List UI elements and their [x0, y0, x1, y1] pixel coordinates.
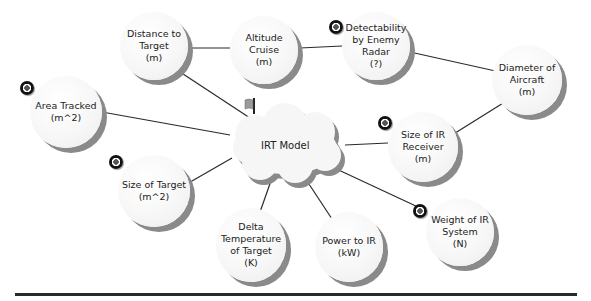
- edge-altitude-detectability: [300, 46, 342, 48]
- edge-targetsize-center: [185, 158, 232, 185]
- node-label: Size of IR Receiver (m): [401, 129, 445, 165]
- node-label: Power to IR (kW): [322, 235, 376, 259]
- node-weight-of-ir-system[interactable]: Weight of IR System (N): [426, 198, 494, 266]
- bottom-divider: [15, 293, 577, 296]
- node-label: Size of Target (m^2): [122, 179, 186, 203]
- edge-diameter-irreceiver: [452, 100, 508, 135]
- target-icon-detectability[interactable]: [329, 20, 343, 34]
- node-label: Detectability by Enemy Radar (?): [346, 22, 407, 70]
- target-icon-size-of-target[interactable]: [109, 155, 123, 169]
- target-icon-area-tracked[interactable]: [20, 81, 34, 95]
- node-detectability-by-enemy-radar[interactable]: Detectability by Enemy Radar (?): [342, 12, 410, 80]
- node-label: Area Tracked (m^2): [35, 100, 96, 124]
- node-size-of-target[interactable]: Size of Target (m^2): [118, 155, 190, 227]
- node-label: Weight of IR System (N): [431, 214, 489, 250]
- node-distance-to-target[interactable]: Distance to Target (m): [120, 12, 188, 80]
- edge-detectability-diameter: [410, 52, 500, 72]
- node-label: Diameter of Aircraft (m): [499, 62, 556, 98]
- node-delta-temperature-of-target[interactable]: Delta Temperature of Target (K): [216, 208, 286, 282]
- node-label: Distance to Target (m): [127, 28, 181, 64]
- edge-area-center: [102, 112, 230, 135]
- diagram-canvas: IRT Model Distance to Target (m) Altitud…: [0, 0, 591, 301]
- irt-model-label: IRT Model: [261, 140, 309, 151]
- node-altitude-cruise[interactable]: Altitude Cruise (m): [230, 16, 298, 84]
- target-icon-ir-receiver[interactable]: [378, 116, 392, 130]
- flag-icon: [245, 98, 255, 114]
- edge-irreceiver-center: [345, 143, 388, 145]
- node-size-of-ir-receiver[interactable]: Size of IR Receiver (m): [388, 112, 458, 182]
- node-label: Altitude Cruise (m): [230, 32, 298, 68]
- node-label: Delta Temperature of Target (K): [221, 221, 281, 269]
- target-icon-weight-ir-system[interactable]: [413, 204, 427, 218]
- edge-distance-center: [180, 72, 250, 118]
- node-diameter-of-aircraft[interactable]: Diameter of Aircraft (m): [492, 45, 562, 115]
- node-power-to-ir[interactable]: Power to IR (kW): [315, 212, 383, 282]
- node-area-tracked[interactable]: Area Tracked (m^2): [30, 76, 102, 148]
